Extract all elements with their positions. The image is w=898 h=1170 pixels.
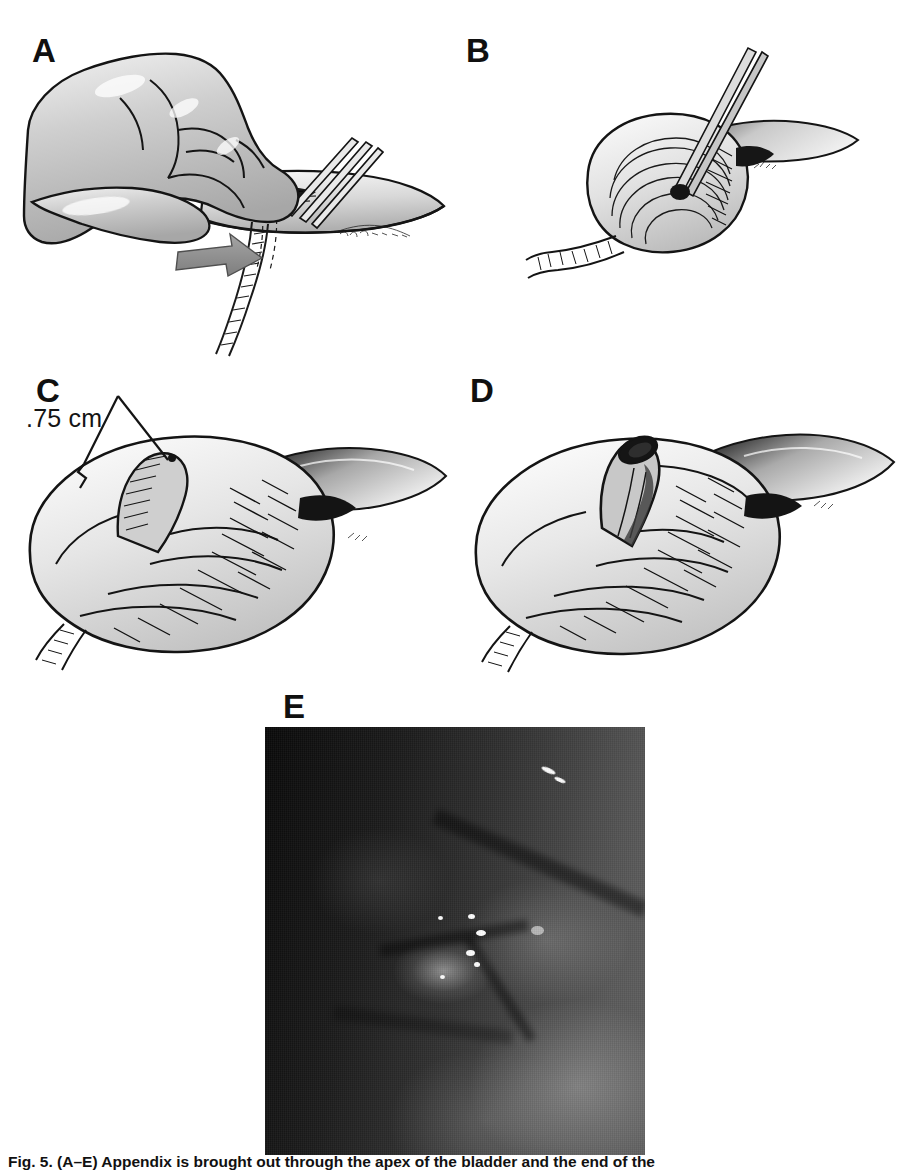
panel-label-e: E	[283, 690, 305, 723]
panel-label-d: D	[470, 374, 494, 407]
panel-a-hand-grasping-appendix	[0, 20, 450, 365]
measurement-label: .75 cm	[26, 404, 102, 433]
panel-label-a: A	[32, 34, 56, 67]
panel-label-c: C	[36, 374, 60, 407]
panel-label-b: B	[466, 34, 490, 67]
panel-e-endoscopic-photograph	[265, 727, 645, 1155]
panel-b-forceps-in-stump	[448, 20, 898, 365]
figure-caption: Fig. 5. (A–E) Appendix is brought out th…	[8, 1152, 892, 1170]
panel-d-open-stoma	[448, 368, 898, 678]
figure-panel-grid: A B C D E .75 cm Fig. 5. (A–E) Appendix …	[0, 0, 898, 1170]
